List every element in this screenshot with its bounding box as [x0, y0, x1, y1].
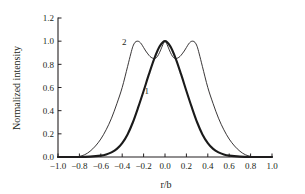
x-tick-label: −0.2: [135, 161, 151, 171]
x-tick-label: −0.4: [114, 161, 131, 171]
y-axis-tick-group: 0.00.20.40.60.81.01.2: [43, 13, 62, 162]
y-tick-label: 0.6: [43, 83, 55, 93]
x-tick-label: 0.0: [159, 161, 171, 171]
y-tick-label: 0.0: [43, 152, 55, 162]
y-tick-label: 0.4: [43, 106, 55, 116]
y-tick-label: 1.2: [43, 13, 54, 23]
y-axis-title: Normalized intensity: [11, 46, 22, 130]
x-tick-label: 0.4: [202, 161, 214, 171]
series-annotation-group: 12: [122, 37, 149, 96]
curve-series-2: [58, 41, 272, 157]
x-tick-label: 0.2: [181, 161, 192, 171]
x-tick-label: 0.6: [224, 161, 236, 171]
y-tick-label: 1.0: [43, 36, 55, 46]
series-annotation-2: 2: [122, 37, 127, 47]
x-tick-label: −0.6: [93, 161, 110, 171]
curve-series-1: [58, 41, 272, 157]
chart-plot: −1.0−0.8−0.6−0.4−0.20.00.20.40.60.81.0 0…: [0, 0, 305, 194]
x-axis-title: r/b: [160, 179, 171, 190]
x-tick-label: 1.0: [266, 161, 278, 171]
x-tick-label: −0.8: [71, 161, 88, 171]
figure-container: −1.0−0.8−0.6−0.4−0.20.00.20.40.60.81.0 0…: [0, 0, 305, 194]
x-tick-label: 0.8: [245, 161, 257, 171]
series-annotation-1: 1: [145, 86, 150, 96]
y-tick-label: 0.8: [43, 60, 55, 70]
x-tick-label: −1.0: [50, 161, 67, 171]
data-series-group: [58, 41, 272, 157]
y-tick-label: 0.2: [43, 129, 54, 139]
